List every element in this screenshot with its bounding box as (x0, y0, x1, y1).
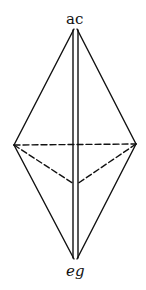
bipyramid-diagram (0, 0, 146, 290)
edge-top-left (14, 29, 74, 145)
edge-bottom-right (77, 144, 136, 259)
edge-bottom-left (14, 145, 74, 259)
hidden-edge-right-back (77, 144, 136, 184)
hidden-edge-equator (14, 144, 136, 145)
edge-top-right (77, 29, 136, 144)
vertex-label-bottom: eg (66, 264, 84, 279)
vertex-label-top: ac (66, 12, 83, 27)
hidden-edge-left-back (14, 145, 74, 184)
